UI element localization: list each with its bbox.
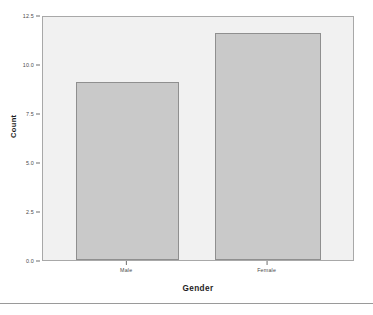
y-tick-label-0-0: 0.0	[26, 258, 34, 264]
y-tick-mark-0-0	[36, 261, 40, 262]
y-tick-mark-2-5	[36, 212, 40, 213]
y-tick-label-10-0: 10.0	[23, 62, 34, 68]
plot-inner	[43, 17, 353, 260]
y-tick-label-2-5: 2.5	[26, 209, 34, 215]
y-tick-mark-10-0	[36, 65, 40, 66]
y-tick-label-5-0: 5.0	[26, 160, 34, 166]
x-tick-mark-female	[266, 261, 267, 265]
x-tick-mark-male	[126, 261, 127, 265]
y-tick-label-12-5: 12.5	[23, 13, 34, 19]
bar-male	[76, 82, 179, 260]
x-tick-label-male: Male	[120, 267, 132, 273]
bottom-divider	[0, 303, 373, 304]
bar-female	[215, 33, 321, 260]
y-tick-mark-12-5	[36, 16, 40, 17]
x-tick-label-female: Female	[257, 267, 276, 273]
x-axis-title: Gender	[42, 284, 354, 293]
y-axis: 12.5 10.0 7.5 5.0 2.5 0.0	[0, 16, 40, 261]
x-tick-female: Female	[257, 261, 276, 273]
y-tick-mark-7-5	[36, 114, 40, 115]
y-tick-label-7-5: 7.5	[26, 111, 34, 117]
x-axis: Male Female	[42, 261, 354, 277]
plot-area	[42, 16, 354, 261]
x-tick-male: Male	[120, 261, 132, 273]
y-tick-mark-5-0	[36, 163, 40, 164]
bar-chart: Count 12.5 10.0 7.5 5.0 2.5 0.0 Male Fem…	[0, 0, 373, 315]
